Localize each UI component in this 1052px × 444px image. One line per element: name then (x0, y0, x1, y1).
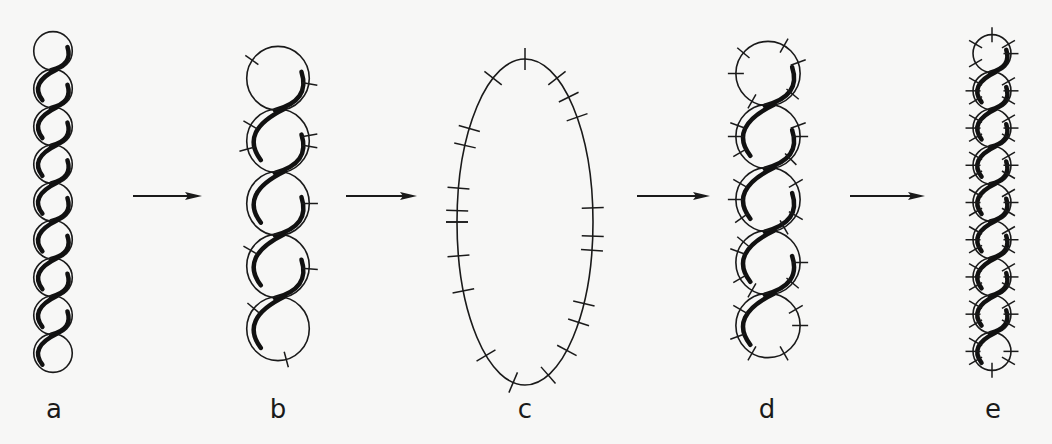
arrow-a-to-b (133, 192, 202, 200)
tick-mark (1002, 226, 1015, 234)
arrow-c-to-d (637, 192, 710, 200)
coil-strand-back (51, 160, 69, 183)
coil-ring (247, 109, 310, 173)
tick-mark (1002, 40, 1015, 48)
tick-mark (748, 346, 756, 360)
tick-mark (1002, 115, 1015, 123)
tick-mark (1002, 357, 1015, 365)
tick-mark (581, 249, 603, 251)
coil-strand-back (275, 260, 304, 298)
tick-mark (780, 346, 788, 360)
tick-mark (243, 246, 257, 254)
tick-mark (1002, 152, 1015, 160)
label-a: a (46, 394, 62, 424)
panel-b-coil-five-rings-ticked (239, 46, 317, 367)
tick-mark (509, 372, 518, 392)
tick-mark (735, 213, 748, 222)
tick-mark (448, 255, 470, 257)
tick-mark (1002, 189, 1015, 197)
coil-strand-back (51, 123, 69, 146)
coil-ring (736, 293, 800, 357)
tick-mark (582, 236, 604, 237)
tick-mark (557, 345, 576, 355)
tick-mark (969, 59, 982, 66)
tick-mark (969, 40, 982, 48)
coil-strand-back (51, 236, 69, 259)
panel-e-coil-nine-rings-dense-ticks (966, 27, 1019, 378)
coil-strand-back (275, 197, 304, 235)
coil-strand-back (51, 198, 69, 221)
tick-mark (245, 55, 258, 64)
label-b: b (270, 394, 287, 424)
tick-mark (567, 114, 588, 121)
coil-ring (736, 41, 800, 105)
label-d: d (759, 394, 776, 424)
coil-ring (247, 234, 310, 298)
label-e: e (985, 394, 1001, 424)
tick-mark (780, 39, 788, 53)
panel-d-coil-five-rings-dense-ticks (728, 39, 808, 361)
tick-mark (1002, 78, 1015, 86)
tick-mark (733, 275, 747, 283)
coil-ring (247, 46, 310, 110)
coil-strand-back (51, 85, 69, 108)
tick-mark (1002, 301, 1015, 309)
coil-strand-back (51, 311, 69, 334)
panel-c-open-ellipse-ticked (446, 48, 604, 393)
coil-ring (736, 230, 800, 294)
panel-a-coil-nine-rings (34, 32, 73, 373)
tick-mark (733, 179, 747, 187)
tick-mark (748, 283, 756, 297)
coil-ring (247, 172, 310, 236)
tick-mark (559, 92, 579, 102)
arrows (133, 192, 925, 200)
label-c: c (518, 394, 532, 424)
tick-mark (448, 187, 470, 189)
coil-strand-back (51, 47, 69, 70)
arrow-b-to-c (346, 192, 417, 200)
tick-mark (748, 94, 756, 108)
tick-mark (582, 207, 604, 208)
coil-strand-back (275, 135, 304, 173)
tick-mark (733, 305, 747, 313)
tick-mark (243, 121, 257, 129)
coil-strand-back (765, 130, 794, 169)
tick-mark (733, 149, 747, 157)
loop-ellipse (457, 59, 593, 385)
coil-strand-back (275, 72, 304, 110)
coil-strand-back (51, 274, 69, 297)
tick-mark (1002, 264, 1015, 272)
tick-mark (789, 305, 803, 313)
tick-mark (477, 350, 496, 361)
coil-ring (247, 297, 310, 361)
tick-mark (548, 71, 565, 85)
tick-mark (789, 179, 803, 187)
diagram-canvas: a b c d e (0, 0, 1052, 444)
coil-strand-back (765, 256, 794, 295)
tick-mark (446, 210, 468, 211)
coil-ring (736, 167, 800, 231)
tick-mark (484, 71, 501, 85)
coil-strand-back (765, 67, 794, 106)
arrow-d-to-e (850, 192, 925, 200)
